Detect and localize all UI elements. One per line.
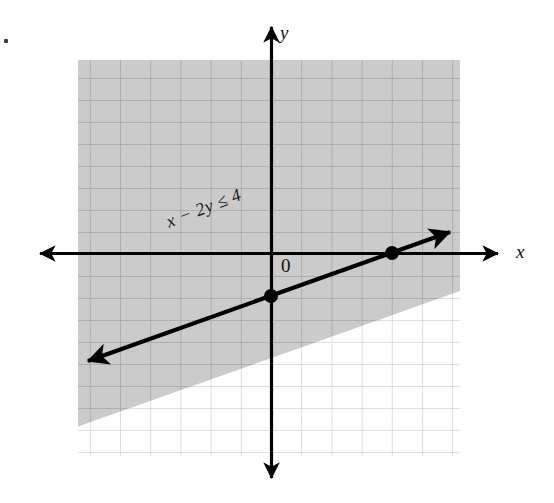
x-axis-label: x <box>516 242 524 261</box>
origin-label: 0 <box>281 256 291 275</box>
y-axis-label: y <box>280 23 288 42</box>
coordinate-plane-svg <box>0 0 554 503</box>
graph-figure: x y 0 x − 2y ≤ 4 <box>0 0 554 503</box>
point-x-intercept <box>385 246 399 260</box>
point-y-intercept <box>264 289 278 303</box>
page-speck <box>4 39 8 43</box>
